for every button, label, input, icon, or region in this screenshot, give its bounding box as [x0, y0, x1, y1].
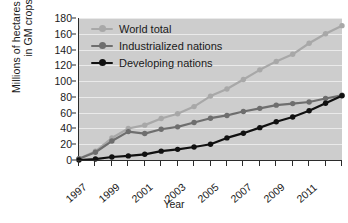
data-point-marker — [208, 93, 213, 98]
data-point-marker — [158, 148, 163, 153]
legend-item: Developing nations — [91, 56, 222, 70]
y-axis-tick-mark — [72, 96, 76, 97]
y-axis-title: Millions of hectares planted in GM crops — [8, 0, 36, 102]
legend-marker-icon — [91, 24, 113, 34]
x-axis-tick-mark — [78, 161, 79, 166]
data-point-marker — [224, 86, 229, 91]
data-point-marker — [257, 106, 262, 111]
y-axis-tick-mark — [72, 112, 76, 113]
data-point-marker — [290, 101, 295, 106]
y-axis-tick-label: 160 — [54, 28, 72, 40]
x-axis-tick-mark — [292, 161, 293, 166]
y-axis-tick-label: 140 — [54, 44, 72, 56]
data-point-marker — [274, 102, 279, 107]
data-point-marker — [323, 31, 328, 36]
x-axis-tick-mark — [325, 161, 326, 166]
x-axis-tick-mark — [177, 161, 178, 166]
data-point-marker — [306, 99, 311, 104]
legend-item-label: World total — [119, 23, 171, 35]
x-axis-tick-mark — [341, 161, 342, 166]
data-point-marker — [191, 120, 196, 125]
data-point-marker — [224, 113, 229, 118]
data-point-marker — [274, 59, 279, 64]
plot-area: World totalIndustrialized nationsDevelop… — [78, 18, 342, 160]
data-point-marker — [109, 154, 114, 159]
data-point-marker — [290, 52, 295, 57]
y-axis-tick-mark — [72, 144, 76, 145]
data-point-marker — [241, 77, 246, 82]
series-line — [79, 96, 342, 160]
y-axis-tick-label: 100 — [54, 75, 72, 87]
x-axis-tick-mark — [226, 161, 227, 166]
data-point-marker — [224, 135, 229, 140]
y-axis-tick-mark — [72, 160, 76, 161]
x-axis-tick-mark — [308, 161, 309, 166]
data-point-marker — [158, 116, 163, 121]
data-point-marker — [191, 104, 196, 109]
y-axis-tick-mark — [72, 65, 76, 66]
data-point-marker — [175, 124, 180, 129]
y-axis-tick-label: 40 — [60, 122, 72, 134]
data-point-marker — [175, 147, 180, 152]
x-axis-tick-mark — [275, 161, 276, 166]
data-point-marker — [274, 119, 279, 124]
data-point-marker — [323, 101, 328, 106]
data-point-marker — [257, 67, 262, 72]
y-axis-tick-label: 180 — [54, 12, 72, 24]
y-axis-tick-mark — [72, 33, 76, 34]
data-point-marker — [191, 144, 196, 149]
chart-legend: World totalIndustrialized nationsDevelop… — [91, 22, 222, 70]
x-axis-tick-mark — [193, 161, 194, 166]
gm-crops-line-chart: Millions of hectares planted in GM crops… — [0, 0, 348, 223]
legend-marker-icon — [91, 41, 113, 51]
x-axis-tick-mark — [160, 161, 161, 166]
x-axis-tick-mark — [94, 161, 95, 166]
y-axis-tick-mark — [72, 128, 76, 129]
data-point-marker — [126, 129, 131, 134]
y-axis-tick-label: 60 — [60, 107, 72, 119]
legend-item: World total — [91, 22, 222, 36]
data-point-marker — [175, 111, 180, 116]
data-point-marker — [208, 115, 213, 120]
data-point-marker — [241, 130, 246, 135]
data-point-marker — [306, 108, 311, 113]
data-point-marker — [126, 153, 131, 158]
x-axis-tick-mark — [210, 161, 211, 166]
data-point-marker — [142, 122, 147, 127]
data-point-marker — [241, 109, 246, 114]
x-axis-tick-mark — [127, 161, 128, 166]
y-axis-tick-mark — [72, 18, 76, 19]
data-point-marker — [158, 127, 163, 132]
y-axis-tick-label: 20 — [60, 138, 72, 150]
y-axis-tick-label: 120 — [54, 59, 72, 71]
data-point-marker — [208, 142, 213, 147]
x-axis-tick-mark — [111, 161, 112, 166]
legend-item: Industrialized nations — [91, 39, 222, 53]
data-point-marker — [339, 23, 344, 28]
data-point-marker — [109, 138, 114, 143]
data-point-marker — [290, 114, 295, 119]
x-axis-tick-mark — [144, 161, 145, 166]
legend-marker-icon — [91, 58, 113, 68]
series-line — [79, 95, 342, 158]
data-point-marker — [142, 152, 147, 157]
x-axis-title: Year — [0, 198, 348, 210]
data-point-marker — [257, 125, 262, 130]
y-axis-tick-mark — [72, 49, 76, 50]
data-point-marker — [142, 131, 147, 136]
data-point-marker — [339, 93, 344, 98]
legend-item-label: Industrialized nations — [119, 40, 222, 52]
x-axis-tick-mark — [242, 161, 243, 166]
y-axis-tick-mark — [72, 81, 76, 82]
y-axis-tick-label: 80 — [60, 91, 72, 103]
data-point-marker — [323, 96, 328, 101]
x-axis-tick-mark — [259, 161, 260, 166]
data-point-marker — [306, 41, 311, 46]
legend-item-label: Developing nations — [119, 57, 213, 69]
data-point-marker — [93, 150, 98, 155]
